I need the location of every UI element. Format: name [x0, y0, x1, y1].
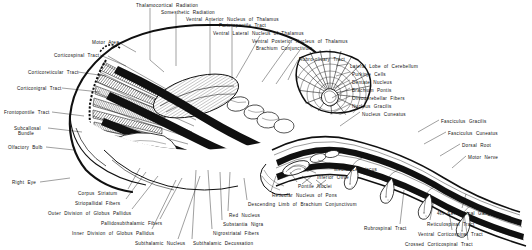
- label-fasciculus-cuneatus: Fasciculus Cuneatus: [448, 131, 498, 136]
- corticofugal-fiber-fan: [68, 45, 296, 187]
- label-ventral-lateral-nucleus-of-thalamus: Ventral Lateral Nucleus of Thalamus: [213, 31, 304, 36]
- label-motor-nerve: Motor Nerve: [468, 155, 498, 160]
- label-subcallosal-bundle-line2: Bundle: [18, 131, 34, 136]
- label-thalamocortical-radiation: Thalamocortical Radiation: [136, 3, 198, 8]
- label-frontopontile-tract: Frontopontile Tract: [4, 110, 50, 115]
- label-right-eye: Right Eye: [12, 180, 36, 185]
- label-descending-limb-of-brachium-conjunctivum: Descending Limb of Brachium Conjunctivum: [248, 202, 357, 207]
- label-pontile-nuclei: Pontile Nuclei: [298, 184, 332, 189]
- label-nigrostriatal-fibers: Nigrostriatal Fibers: [213, 231, 259, 236]
- label-corticoreticular-tract: Corticoreticular Tract: [28, 70, 79, 75]
- label-inferior-olive: Inferior Olive: [317, 175, 349, 180]
- label-rubro-olivary-tract: Rubro-olivary Tract: [299, 57, 345, 62]
- label-ventral-anterior-nucleus-of-thalamus: Ventral Anterior Nucleus of Thalamus: [186, 17, 279, 22]
- label-somesthetic-radiation: Somesthetic Radiation: [161, 10, 215, 15]
- label-outer-division-of-globus-pallidus: Outer Division of Globus Pallidus: [48, 211, 131, 216]
- label-medial-lemniscus: Medial Lemniscus: [334, 167, 377, 172]
- label-corticonigral-tract: Corticonigral Tract: [17, 86, 62, 91]
- label-corticospinal-tract-upper: Corticospinal Tract: [54, 53, 99, 58]
- label-ventral-posterior-nucleus-of-thalamus: Ventral Posterior Nucleus of Thalamus: [252, 39, 348, 44]
- label-cervical-spinal-ganglion: 4th Cer. Spinal Ganglion: [437, 211, 499, 216]
- label-striopallidal-fibers: Striopallidal Fibers: [75, 201, 120, 206]
- label-fasciculus-gracilis: Fasciculus Gracilis: [441, 119, 487, 124]
- label-crossed-corticospinal-tract: Crossed Corticospinal Tract: [405, 242, 473, 247]
- label-motor-area: Motor Area: [92, 40, 119, 45]
- label-brachium-conjunctivum: Brachium Conjunctivum: [256, 46, 312, 51]
- label-nucleus-gracilis: Nucleus Gracilis: [352, 104, 392, 109]
- label-parietopontile-tract: Parietopontile Tract: [219, 23, 266, 28]
- label-dorsal-root: Dorsal Root: [462, 143, 491, 148]
- label-lateral-lobe-of-cerebellum: Lateral Lobe of Cerebellum: [350, 64, 418, 69]
- label-subthalamic-nucleus: Subthalamic Nucleus: [135, 241, 185, 246]
- label-pallidosubthalamic-fibers: Pallidosubthalamic Fibers: [101, 221, 162, 226]
- label-olfactory-bulb: Olfactory Bulb: [8, 145, 43, 150]
- label-purkinje-cells: Purkinje Cells: [352, 72, 386, 77]
- label-rubrospinal-tract: Rubrospinal Tract: [364, 226, 407, 231]
- label-subthalamic-decussation: Subthalamic Decussation: [193, 241, 253, 246]
- label-inner-division-of-globus-pallidus: Inner Division of Globus Pallidus: [72, 231, 154, 236]
- label-ventral-corticospinal-tract: Ventral Corticospinal Tract: [418, 232, 483, 237]
- label-red-nucleus: Red Nucleus: [229, 213, 260, 218]
- label-corpus-striatum: Corpus Striatum: [78, 191, 117, 196]
- label-dentate-nucleus: Dentate Nucleus: [352, 80, 392, 85]
- label-reticulospinal-tract: Reticulospinal Tract: [427, 222, 475, 227]
- label-olivocerebellar-fibers: Olivocerebellar Fibers: [352, 96, 405, 101]
- subthalamic-substantia-nigra: [177, 153, 243, 184]
- label-substantia-nigra: Substantia Nigra: [223, 222, 263, 227]
- thalamic-nuclei: [226, 95, 294, 133]
- neuroanatomy-figure: Thalamocortical RadiationSomesthetic Rad…: [0, 0, 532, 250]
- label-reticular-nucleus-of-pons: Reticular Nucleus of Pons: [272, 193, 337, 198]
- label-brachium-pontis: Brachium Pontis: [352, 88, 392, 93]
- label-nucleus-cuneatus: Nucleus Cuneatus: [362, 112, 406, 117]
- olfactory-and-optic: [68, 146, 176, 182]
